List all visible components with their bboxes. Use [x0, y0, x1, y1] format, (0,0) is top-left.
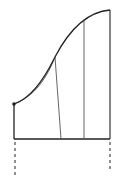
secondary-curve [14, 57, 55, 104]
slanted-segment [55, 57, 61, 139]
diagram-canvas [0, 0, 121, 181]
start-point-marker [12, 102, 16, 106]
main-curve [14, 10, 110, 104]
area-under-curve-diagram [0, 0, 121, 181]
